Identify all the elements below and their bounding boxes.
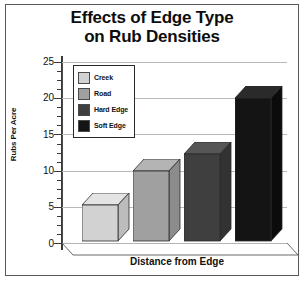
chart-title-line-2: on Rub Densities bbox=[14, 27, 290, 46]
y-tick-minor-6 bbox=[57, 125, 61, 126]
legend-label-road: Road bbox=[94, 90, 111, 97]
legend-item-road: Road bbox=[78, 86, 130, 101]
chart-floor bbox=[62, 243, 298, 255]
y-axis-tick-labels: 25 20 15 10 5 0 bbox=[20, 0, 54, 282]
y-tick-20 bbox=[54, 98, 61, 99]
bar-hard-edge bbox=[184, 144, 231, 243]
legend-swatch-creek bbox=[78, 72, 90, 84]
y-tick-5 bbox=[54, 207, 61, 208]
legend-label-hard-edge: Hard Edge bbox=[94, 106, 128, 113]
x-axis-title: Distance from Edge bbox=[62, 256, 292, 267]
y-tick-minor-13 bbox=[57, 216, 61, 217]
floor-surface bbox=[62, 243, 298, 257]
y-tick-minor-3 bbox=[57, 89, 61, 90]
chart-figure: Effects of Edge Type on Rub Densities 25… bbox=[0, 0, 305, 282]
y-tick-minor-5 bbox=[57, 116, 61, 117]
y-tick-minor-2 bbox=[57, 80, 61, 81]
chart-title-line-1: Effects of Edge Type bbox=[14, 8, 290, 27]
y-tick-minor-7 bbox=[57, 144, 61, 145]
legend-swatch-soft-edge bbox=[78, 120, 90, 132]
y-axis-title: Rubs Per Acre bbox=[9, 90, 18, 180]
y-tick-minor-14 bbox=[57, 225, 61, 226]
legend-swatch-hard-edge bbox=[78, 104, 90, 116]
y-tick-minor-4 bbox=[57, 107, 61, 108]
y-tick-10 bbox=[54, 171, 61, 172]
bar-creek bbox=[82, 195, 129, 243]
gridline-25 bbox=[62, 62, 287, 63]
bar-3d-road bbox=[133, 159, 182, 243]
legend-label-creek: Creek bbox=[94, 74, 113, 81]
y-tick-label-5: 5 bbox=[26, 202, 54, 212]
legend-item-soft-edge: Soft Edge bbox=[78, 118, 130, 133]
legend-swatch-road bbox=[78, 88, 90, 100]
legend-label-soft-edge: Soft Edge bbox=[94, 122, 126, 129]
legend-item-hard-edge: Hard Edge bbox=[78, 102, 130, 117]
y-tick-label-15: 15 bbox=[26, 130, 54, 140]
y-tick-label-10: 10 bbox=[26, 166, 54, 176]
bar-3d-creek bbox=[82, 193, 131, 243]
legend-item-creek: Creek bbox=[78, 70, 130, 85]
y-tick-minor-9 bbox=[57, 162, 61, 163]
bar-soft-edge bbox=[235, 88, 282, 243]
y-tick-minor-1 bbox=[57, 71, 61, 72]
bar-3d-hard-edge bbox=[184, 142, 233, 243]
y-tick-label-0: 0 bbox=[26, 239, 54, 249]
y-tick-25 bbox=[54, 62, 61, 63]
chart-legend: Creek Road Hard Edge Soft Edge bbox=[73, 65, 135, 138]
y-tick-minor-8 bbox=[57, 153, 61, 154]
y-tick-15 bbox=[54, 134, 61, 135]
y-tick-minor-15 bbox=[57, 234, 61, 235]
y-tick-label-20: 20 bbox=[26, 93, 54, 103]
y-tick-0 bbox=[54, 243, 61, 244]
bar-road bbox=[133, 161, 180, 243]
y-tick-minor-11 bbox=[57, 189, 61, 190]
bar-3d-soft-edge bbox=[235, 86, 284, 243]
chart-title: Effects of Edge Type on Rub Densities bbox=[14, 8, 290, 46]
y-tick-label-25: 25 bbox=[26, 57, 54, 67]
y-tick-minor-12 bbox=[57, 198, 61, 199]
y-tick-minor-10 bbox=[57, 180, 61, 181]
